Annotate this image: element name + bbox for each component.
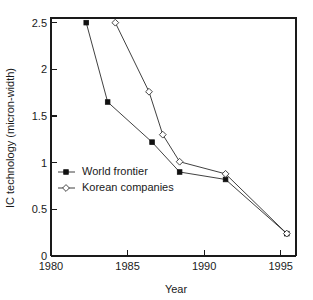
- legend-label: World frontier: [82, 165, 148, 177]
- y-tick-label: 0.5: [32, 203, 47, 215]
- data-point: [177, 170, 182, 175]
- y-tick-label: 2.5: [32, 17, 47, 29]
- legend-label: Korean companies: [82, 181, 174, 193]
- x-tick-label: 1995: [268, 260, 292, 272]
- y-tick-label: 2: [41, 63, 47, 75]
- data-point: [150, 140, 155, 145]
- data-point: [105, 100, 110, 105]
- y-tick-label: 1: [41, 157, 47, 169]
- x-tick-label: 1990: [192, 260, 216, 272]
- y-tick-label: 1.5: [32, 110, 47, 122]
- chart-figure: 00.511.522.5 1980198519901995 Year IC te…: [0, 0, 313, 300]
- legend-marker: [64, 170, 69, 175]
- x-axis-title: Year: [165, 283, 188, 295]
- data-point: [84, 20, 89, 25]
- ic-technology-line-chart: 00.511.522.5 1980198519901995 Year IC te…: [0, 0, 313, 300]
- y-axis-title: IC technology (micron-width): [4, 68, 16, 208]
- x-tick-label: 1980: [39, 260, 63, 272]
- x-tick-label: 1985: [115, 260, 139, 272]
